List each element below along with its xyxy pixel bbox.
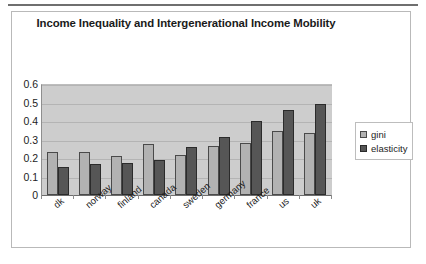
legend-item-elasticity: elasticity [360,141,407,155]
bar-group [203,84,235,195]
x-axis-tick-mark [331,195,332,199]
x-axis-tick-mark [170,195,171,199]
x-axis-tick-mark [267,195,268,199]
bar-group [267,84,299,195]
legend-swatch-icon-elasticity [360,145,367,152]
bar-gini-dk [47,152,58,195]
y-axis-tick-label: 0.4 [23,115,38,127]
chart-title: Income Inequality and Intergenerational … [36,16,336,31]
chart-page: Income Inequality and Intergenerational … [0,0,426,264]
x-axis-label-dk: dk [51,195,66,210]
x-axis-label-us: us [276,195,291,210]
x-axis-label-uk: uk [308,195,323,210]
y-axis-tick-label: 0 [32,189,38,201]
bar-group [106,84,138,195]
bar-gini-uk [304,133,315,195]
chart-legend: ginielasticity [355,122,413,160]
y-axis-tick-label: 0.1 [23,171,38,183]
x-axis-tick-mark [299,195,300,199]
page-top-rule [8,4,418,6]
bar-elasticity-germany [219,137,230,195]
bar-gini-canada [143,144,154,195]
y-axis-tick-label: 0.2 [23,152,38,164]
legend-label: elasticity [371,143,407,154]
legend-label: gini [371,129,386,140]
legend-swatch-icon-gini [360,131,367,138]
x-axis-tick-mark [202,195,203,199]
bar-group [170,84,202,195]
bar-elasticity-uk [315,104,326,195]
bar-gini-us [272,131,283,195]
x-axis-tick-mark [73,195,74,199]
bar-group [138,84,170,195]
bar-group [74,84,106,195]
legend-item-gini: gini [360,127,407,141]
bar-gini-norway [79,152,90,195]
y-axis-tick-label: 0.6 [23,78,38,90]
x-axis-tick-mark [105,195,106,199]
x-axis-tick-mark [138,195,139,199]
bar-elasticity-dk [58,167,69,195]
bar-group [42,84,74,195]
x-axis-tick-labels: dknorwayfinlandcanadaswedengermanyfrance… [41,196,331,256]
bar-elasticity-france [251,121,262,195]
bar-group [299,84,331,195]
y-axis-tick-labels: 00.10.20.30.40.50.6 [8,0,38,264]
bar-groups [42,84,331,195]
x-axis-tick-mark [234,195,235,199]
y-axis-tick-label: 0.5 [23,97,38,109]
y-axis-tick-label: 0.3 [23,134,38,146]
bar-elasticity-us [283,110,294,195]
x-axis-tick-mark [41,195,42,199]
